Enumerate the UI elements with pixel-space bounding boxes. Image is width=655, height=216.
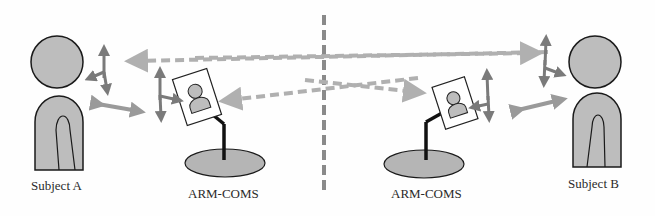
gaze-arrow-a-to-b (195, 53, 532, 58)
subject-a-label: Subject A (31, 178, 82, 194)
arm-coms-diagram: Subject A ARM-COMS ARM-COMS Subject B (0, 0, 655, 216)
motion-arrows-b (544, 40, 561, 82)
diagram-svg (0, 0, 655, 216)
subject-b-figure (569, 36, 621, 167)
interaction-arrows (98, 100, 560, 111)
double-arrow-left (98, 104, 138, 111)
double-arrow-right (518, 100, 560, 110)
subject-a-figure (31, 36, 83, 170)
subject-b-label: Subject B (568, 176, 619, 192)
arm-coms-left-device (172, 69, 265, 177)
motion-arrows-right-device (474, 74, 489, 117)
arm-coms-right-label: ARM-COMS (391, 186, 462, 202)
arm-coms-left-label: ARM-COMS (188, 186, 259, 202)
arm-coms-right-device (384, 77, 478, 178)
motion-arrows-a (90, 50, 107, 90)
